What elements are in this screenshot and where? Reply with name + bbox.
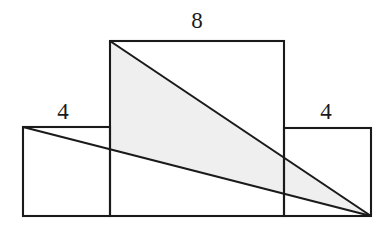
- label-left-width: 4: [57, 99, 69, 124]
- geometry-figure: 4 8 4: [0, 0, 388, 232]
- label-right-width: 4: [320, 99, 332, 124]
- figure-container: 4 8 4: [0, 0, 388, 232]
- label-middle-width: 8: [191, 8, 203, 33]
